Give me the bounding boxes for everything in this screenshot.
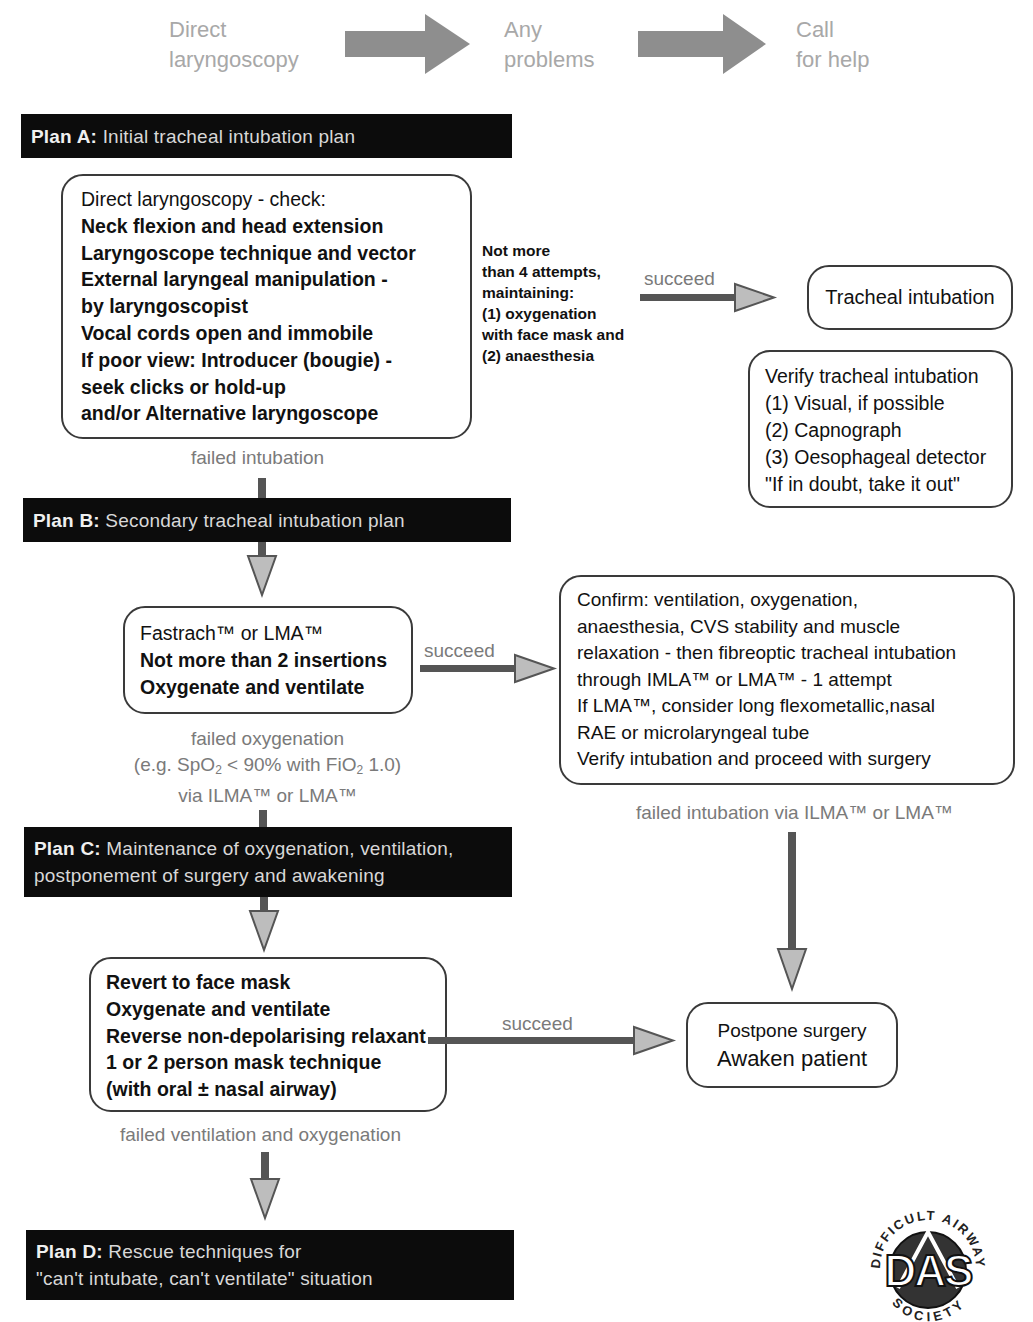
box-line: Laryngoscope technique and vector — [81, 240, 470, 267]
arrow-down-icon — [248, 1152, 282, 1222]
box-line: (with oral ± nasal airway) — [106, 1076, 445, 1103]
box-line: seek clicks or hold-up — [81, 374, 470, 401]
arrow-down-icon — [245, 542, 279, 598]
label-part: (e.g. SpO — [134, 754, 215, 775]
header-step-call-for-help: Call for help — [796, 15, 869, 75]
header-step-line: Direct — [169, 15, 299, 45]
label-part: 1.0) — [363, 754, 401, 775]
arrow-right-icon — [420, 654, 560, 686]
note-line: with face mask and — [482, 324, 624, 345]
verify-intubation-box: Verify tracheal intubation (1) Visual, i… — [748, 350, 1013, 508]
plan-a-bar: Plan A: Initial tracheal intubation plan — [21, 114, 512, 158]
plan-b-bar: Plan B: Secondary tracheal intubation pl… — [23, 498, 511, 542]
box-line: Not more than 2 insertions — [140, 647, 411, 674]
plan-d-text-line2: "can't intubate, can't ventilate" situat… — [36, 1265, 504, 1292]
box-line: Vocal cords open and immobile — [81, 320, 470, 347]
failed-ventilation-label: failed ventilation and oxygenation — [120, 1122, 401, 1148]
note-line: Not more — [482, 240, 624, 261]
das-logo-icon: DAS DIFFICULT AIRWAY SOCIETY — [858, 1200, 998, 1322]
plan-b-label: Plan B: — [33, 510, 100, 531]
box-line: Postpone surgery — [688, 1017, 896, 1045]
header-arrow-right-icon — [345, 14, 475, 76]
box-line: by laryngoscopist — [81, 293, 470, 320]
box-line: Tracheal intubation — [825, 284, 994, 311]
failed-intubation-ilma-label: failed intubation via ILMA™ or LMA™ — [636, 800, 953, 826]
box-line: anaesthesia, CVS stability and muscle — [577, 614, 1013, 641]
plan-a-label: Plan A: — [31, 126, 97, 147]
box-line: (3) Oesophageal detector — [765, 444, 1011, 471]
label-line: via ILMA™ or LMA™ — [100, 783, 435, 809]
confirm-box: Confirm: ventilation, oxygenation, anaes… — [559, 575, 1015, 785]
connector-line — [257, 478, 269, 500]
failed-oxygenation-label: failed oxygenation (e.g. SpO2 < 90% with… — [100, 726, 435, 809]
box-line: If LMA™, consider long flexometallic,nas… — [577, 693, 1013, 720]
box-line: 1 or 2 person mask technique — [106, 1049, 445, 1076]
box-line: Oxygenate and ventilate — [140, 674, 411, 701]
plan-d-bar: Plan D: Rescue techniques for "can't int… — [26, 1230, 514, 1300]
label-line: failed oxygenation — [100, 726, 435, 752]
revert-face-mask-box: Revert to face mask Oxygenate and ventil… — [89, 957, 447, 1112]
direct-laryngoscopy-box: Direct laryngoscopy - check: Neck flexio… — [61, 174, 472, 439]
plan-d-label: Plan D: — [36, 1241, 103, 1262]
arrow-down-icon — [775, 832, 809, 992]
plan-b-text: Secondary tracheal intubation plan — [105, 510, 404, 531]
label-sub: 2 — [215, 763, 222, 777]
box-line: Direct laryngoscopy - check: — [81, 186, 470, 213]
plan-c-text-line1: Maintenance of oxygenation, ventilation, — [106, 838, 453, 859]
box-line: Confirm: ventilation, oxygenation, — [577, 587, 1013, 614]
plan-c-bar: Plan C: Maintenance of oxygenation, vent… — [24, 827, 512, 897]
tracheal-intubation-box: Tracheal intubation — [807, 265, 1013, 330]
note-line: than 4 attempts, — [482, 261, 624, 282]
plan-a-text: Initial tracheal intubation plan — [103, 126, 356, 147]
box-line: RAE or microlaryngeal tube — [577, 720, 1013, 747]
box-line: through IMLA™ or LMA™ - 1 attempt — [577, 667, 1013, 694]
header-step-any-problems: Any problems — [504, 15, 594, 75]
box-line: and/or Alternative laryngoscope — [81, 400, 470, 427]
box-line: Fastrach™ or LMA™ — [140, 620, 411, 647]
header-step-line: for help — [796, 45, 869, 75]
note-line: (2) anaesthesia — [482, 345, 624, 366]
plan-c-text-line2: postponement of surgery and awakening — [34, 862, 502, 889]
arrow-right-icon — [640, 282, 780, 314]
note-line: maintaining: — [482, 282, 624, 303]
box-line: Revert to face mask — [106, 969, 445, 996]
note-line: (1) oxygenation — [482, 303, 624, 324]
plan-d-text-line1: Rescue techniques for — [108, 1241, 301, 1262]
postpone-box: Postpone surgery Awaken patient — [686, 1002, 898, 1088]
plan-c-label: Plan C: — [34, 838, 101, 859]
box-line: Verify intubation and proceed with surge… — [577, 746, 1013, 773]
box-line: (2) Capnograph — [765, 417, 1011, 444]
header-step-direct-laryngoscopy: Direct laryngoscopy — [169, 15, 299, 75]
label-line: (e.g. SpO2 < 90% with FiO2 1.0) — [100, 752, 435, 783]
box-line: Awaken patient — [688, 1045, 896, 1073]
header-step-line: Any — [504, 15, 594, 45]
fastrach-box: Fastrach™ or LMA™ Not more than 2 insert… — [123, 606, 413, 714]
arrow-right-icon — [428, 1026, 678, 1058]
label-part: < 90% with FiO — [222, 754, 357, 775]
header-arrow-right-icon — [638, 14, 768, 76]
box-line: Verify tracheal intubation — [765, 363, 1011, 390]
box-line: If poor view: Introducer (bougie) - — [81, 347, 470, 374]
box-line: (1) Visual, if possible — [765, 390, 1011, 417]
box-line: relaxation - then fibreoptic tracheal in… — [577, 640, 1013, 667]
box-line: Neck flexion and head extension — [81, 213, 470, 240]
box-line: Reverse non-depolarising relaxant — [106, 1023, 445, 1050]
arrow-down-icon — [247, 897, 281, 953]
box-line: External laryngeal manipulation - — [81, 266, 470, 293]
failed-intubation-label: failed intubation — [191, 445, 324, 471]
box-line: Oxygenate and ventilate — [106, 996, 445, 1023]
header-step-line: laryngoscopy — [169, 45, 299, 75]
header-step-line: Call — [796, 15, 869, 45]
header-step-line: problems — [504, 45, 594, 75]
attempts-note: Not more than 4 attempts, maintaining: (… — [482, 240, 624, 366]
svg-text:DAS: DAS — [885, 1246, 973, 1295]
box-line: "If in doubt, take it out" — [765, 471, 1011, 498]
